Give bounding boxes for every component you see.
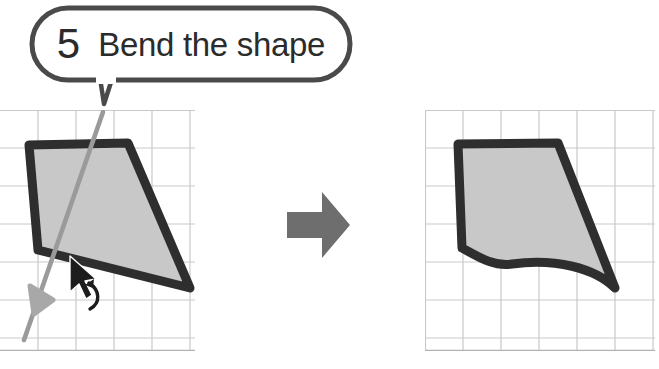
right-arrow (287, 192, 350, 258)
after-panel (425, 110, 655, 351)
illustration-canvas: 5 Bend the shape (0, 0, 659, 369)
before-panel (0, 110, 195, 351)
callout-tail-mask (96, 74, 116, 84)
callout-bubble (32, 8, 350, 104)
callout-outline (32, 8, 350, 80)
illustration-svg (0, 0, 659, 369)
